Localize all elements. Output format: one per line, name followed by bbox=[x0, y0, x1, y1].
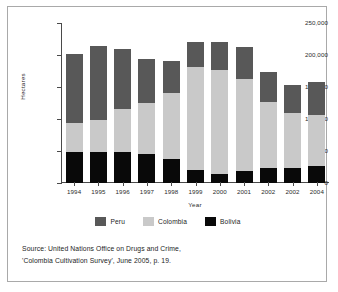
bar-segment-peru[interactable] bbox=[236, 47, 253, 78]
legend-label: Colombia bbox=[158, 218, 187, 225]
x-axis-tick bbox=[123, 182, 124, 186]
bar-segment-colombia[interactable] bbox=[308, 115, 325, 166]
bar-segment-peru[interactable] bbox=[211, 42, 228, 70]
legend-label: Peru bbox=[110, 218, 125, 225]
bar-stack[interactable] bbox=[236, 47, 253, 183]
bar-segment-bolivia[interactable] bbox=[90, 152, 107, 183]
x-axis-tick bbox=[244, 182, 245, 186]
bar-segment-colombia[interactable] bbox=[114, 109, 131, 152]
bar-segment-peru[interactable] bbox=[187, 42, 204, 67]
bar-segment-bolivia[interactable] bbox=[308, 166, 325, 183]
bar-segment-peru[interactable] bbox=[138, 59, 155, 103]
x-axis-tick bbox=[268, 182, 269, 186]
bar-segment-colombia[interactable] bbox=[163, 93, 180, 158]
legend-swatch-icon bbox=[95, 217, 106, 226]
bar-segment-bolivia[interactable] bbox=[260, 168, 277, 183]
bar-segment-peru[interactable] bbox=[163, 61, 180, 94]
x-axis-tick bbox=[196, 182, 197, 186]
bar-segment-colombia[interactable] bbox=[138, 103, 155, 154]
bar-segment-colombia[interactable] bbox=[66, 123, 83, 152]
x-axis-tick bbox=[317, 182, 318, 186]
bar-segment-peru[interactable] bbox=[114, 49, 131, 109]
bar-segment-peru[interactable] bbox=[260, 72, 277, 102]
legend-item[interactable]: Colombia bbox=[143, 217, 187, 226]
x-axis-tick bbox=[98, 182, 99, 186]
legend-swatch-icon bbox=[205, 217, 216, 226]
y-axis-title: Hectares bbox=[19, 57, 26, 117]
bar-segment-colombia[interactable] bbox=[284, 113, 301, 168]
bar-stack[interactable] bbox=[187, 42, 204, 183]
bar-segment-colombia[interactable] bbox=[211, 70, 228, 174]
chart-plot-area: Hectares 250,000200,000150,000100,00050,… bbox=[8, 7, 328, 213]
bar-stack[interactable] bbox=[163, 61, 180, 183]
x-axis-tick-label: 2004 bbox=[302, 188, 332, 195]
source-line-2: 'Colombia Cultivation Survey', June 2005… bbox=[22, 255, 318, 267]
bar-segment-colombia[interactable] bbox=[90, 120, 107, 153]
source-line-1: Source: United Nations Office on Drugs a… bbox=[22, 243, 318, 255]
x-axis-tick bbox=[171, 182, 172, 186]
bar-segment-bolivia[interactable] bbox=[66, 152, 83, 183]
bar-segment-bolivia[interactable] bbox=[138, 154, 155, 183]
bar-segment-bolivia[interactable] bbox=[114, 152, 131, 183]
bar-stack[interactable] bbox=[138, 59, 155, 183]
bar-stack[interactable] bbox=[90, 46, 107, 183]
bar-segment-peru[interactable] bbox=[308, 82, 325, 115]
bar-stack[interactable] bbox=[284, 85, 301, 183]
bar-segment-colombia[interactable] bbox=[236, 79, 253, 171]
bar-segment-colombia[interactable] bbox=[187, 67, 204, 169]
x-axis-tick bbox=[220, 182, 221, 186]
bar-segment-peru[interactable] bbox=[66, 54, 83, 123]
x-axis-tick bbox=[147, 182, 148, 186]
x-axis-tick bbox=[293, 182, 294, 186]
bar-segment-peru[interactable] bbox=[90, 46, 107, 120]
y-axis-tick bbox=[57, 183, 62, 184]
bar-segment-peru[interactable] bbox=[284, 85, 301, 113]
legend-item[interactable]: Peru bbox=[95, 217, 125, 226]
bar-segment-bolivia[interactable] bbox=[163, 159, 180, 183]
bar-segment-bolivia[interactable] bbox=[284, 168, 301, 183]
legend-label: Bolivia bbox=[220, 218, 240, 225]
source-note: Source: United Nations Office on Drugs a… bbox=[22, 243, 318, 266]
x-axis-tick bbox=[74, 182, 75, 186]
bar-segment-colombia[interactable] bbox=[260, 102, 277, 167]
bar-stack[interactable] bbox=[66, 54, 83, 183]
bar-stack[interactable] bbox=[211, 42, 228, 183]
legend-swatch-icon bbox=[143, 217, 154, 226]
chart-legend: PeruColombiaBolivia bbox=[8, 217, 328, 226]
figure-frame: Hectares 250,000200,000150,000100,00050,… bbox=[7, 6, 327, 282]
bar-stack[interactable] bbox=[308, 82, 325, 183]
bar-stack[interactable] bbox=[260, 72, 277, 183]
legend-item[interactable]: Bolivia bbox=[205, 217, 240, 226]
x-axis-title: Year bbox=[61, 201, 329, 208]
bar-segment-bolivia[interactable] bbox=[187, 170, 204, 183]
bars-layer bbox=[62, 23, 329, 183]
bar-stack[interactable] bbox=[114, 49, 131, 183]
